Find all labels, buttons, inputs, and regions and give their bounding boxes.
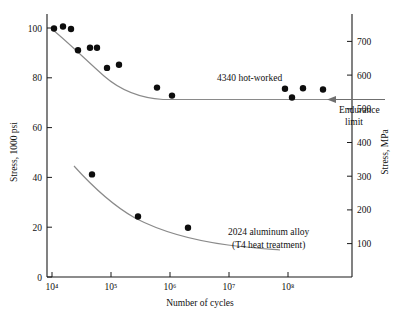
left-tick-label-60: 60 [33,123,43,133]
left-tick-label-100: 100 [28,24,43,34]
bottom-tick-label-1e8: 10⁸ [282,282,295,292]
right-tick-label-100: 100 [357,239,372,249]
annotation-endurance-limit-line2: limit [345,117,363,127]
data-point [185,225,191,231]
data-point [104,65,110,71]
bottom-axis-ticks [52,272,288,277]
bottom-tick-label-1e4: 10⁴ [46,282,60,292]
bottom-axis-tick-labels: 10⁴ 10⁵ 10⁶ 10⁷ 10⁸ [46,282,295,292]
endurance-limit-annotation: Endurance limit [327,96,385,127]
right-axis-tick-labels: 100 200 300 400 500 600 700 [357,37,372,249]
series-curve-4340-hot-worked [53,30,352,100]
right-tick-label-700: 700 [357,37,372,47]
series-curve-2024-aluminum [74,166,280,250]
data-point [94,45,100,51]
left-tick-label-80: 80 [33,73,43,83]
data-point [89,171,95,177]
annotation-2024-aluminum-line1: 2024 aluminum alloy [228,227,310,237]
annotation-endurance-limit-line1: Endurance [339,105,380,115]
endurance-limit-arrow-head [327,96,336,103]
data-point [320,86,326,92]
series-points-4340-hot-worked [51,23,326,100]
data-point [68,26,74,32]
data-point [51,25,57,31]
data-point [87,45,93,51]
bottom-tick-label-1e7: 10⁷ [223,282,236,292]
data-point [169,92,175,98]
right-tick-label-300: 300 [357,172,372,182]
data-point [116,61,122,67]
left-axis-ticks [47,28,52,277]
figure-caption-cropped [0,316,395,322]
left-tick-label-40: 40 [33,173,43,183]
right-tick-label-600: 600 [357,71,372,81]
aluminum-annotation: 2024 aluminum alloy (T4 heat treatment) [228,227,310,251]
right-axis-title: Stress, MPa [380,129,390,175]
data-point [60,23,66,29]
left-axis-tick-labels: 0 20 40 60 80 100 [28,24,43,283]
data-point [289,94,295,100]
series-points-2024-aluminum [89,171,191,231]
left-tick-label-0: 0 [37,273,42,283]
fatigue-sn-curve-figure: 0 20 40 60 80 100 Stress, 1000 psi 100 2… [0,0,395,322]
data-point [300,85,306,91]
annotation-2024-aluminum-line2: (T4 heat treatment) [232,240,305,251]
left-axis-title: Stress, 1000 psi [9,122,19,182]
data-point [75,47,81,53]
chart-canvas: 0 20 40 60 80 100 Stress, 1000 psi 100 2… [0,0,395,322]
right-tick-label-400: 400 [357,138,372,148]
right-axis-ticks [347,41,352,243]
data-point [135,213,141,219]
axes-frame [47,14,352,277]
data-point [154,84,160,90]
data-point [282,86,288,92]
bottom-axis-title: Number of cycles [166,298,234,308]
left-tick-label-20: 20 [33,223,43,233]
right-tick-label-200: 200 [357,205,372,215]
bottom-tick-label-1e5: 10⁵ [105,282,118,292]
annotation-4340-hot-worked: 4340 hot-worked [217,73,282,83]
bottom-tick-label-1e6: 10⁶ [164,282,177,292]
